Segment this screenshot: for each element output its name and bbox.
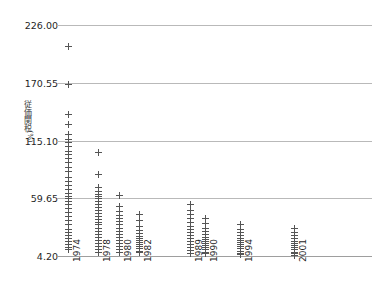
- data-point: [65, 155, 72, 162]
- data-point: [65, 201, 72, 208]
- y-tick-label: 4.20: [12, 251, 58, 262]
- data-point: [116, 215, 123, 222]
- data-point: [291, 244, 298, 251]
- chart-container: 従価関税 (%) 226.00170.55115.1059.654.20 197…: [0, 0, 386, 298]
- data-point: [291, 229, 298, 236]
- gridline: [57, 83, 372, 84]
- data-point: [136, 243, 143, 250]
- data-point: [65, 178, 72, 185]
- data-point: [65, 193, 72, 200]
- data-point: [187, 238, 194, 245]
- y-axis-ticks: 226.00170.55115.1059.654.20: [0, 0, 58, 298]
- data-point: [136, 230, 143, 237]
- x-tick-label: 2001: [298, 239, 308, 262]
- data-point: [65, 213, 72, 220]
- data-point: [202, 228, 209, 235]
- data-point: [95, 188, 102, 195]
- data-point: [187, 207, 194, 214]
- data-point: [95, 207, 102, 214]
- data-point: [291, 242, 298, 249]
- data-point: [187, 226, 194, 233]
- data-point: [95, 243, 102, 250]
- data-point: [95, 234, 102, 241]
- data-point: [65, 235, 72, 242]
- data-point: [202, 231, 209, 238]
- data-point: [65, 190, 72, 197]
- data-point: [237, 241, 244, 248]
- data-point: [95, 221, 102, 228]
- data-point: [95, 246, 102, 253]
- data-point: [65, 159, 72, 166]
- data-point: [65, 143, 72, 150]
- data-point: [291, 232, 298, 239]
- data-point: [187, 211, 194, 218]
- data-point: [136, 227, 143, 234]
- data-point: [65, 238, 72, 245]
- data-point: [187, 215, 194, 222]
- y-tick-label: 115.10: [12, 135, 58, 146]
- data-point: [187, 244, 194, 251]
- data-point: [95, 171, 102, 178]
- data-point: [237, 239, 244, 246]
- data-point: [187, 201, 194, 208]
- data-point: [95, 237, 102, 244]
- data-point: [95, 210, 102, 217]
- data-point: [95, 216, 102, 223]
- data-point: [187, 247, 194, 254]
- data-point: [202, 220, 209, 227]
- data-point: [65, 244, 72, 251]
- data-point: [187, 223, 194, 230]
- data-point: [187, 241, 194, 248]
- data-point: [65, 168, 72, 175]
- data-point: [291, 235, 298, 242]
- x-tick-label: 1978: [102, 239, 112, 262]
- data-point: [95, 201, 102, 208]
- data-point: [237, 245, 244, 252]
- data-point: [65, 151, 72, 158]
- data-point: [116, 234, 123, 241]
- data-point: [65, 205, 72, 212]
- data-point: [95, 219, 102, 226]
- data-point: [136, 248, 143, 255]
- data-point: [65, 209, 72, 216]
- data-point: [136, 241, 143, 248]
- data-point: [65, 164, 72, 171]
- data-point: [237, 237, 244, 244]
- data-point: [291, 240, 298, 247]
- data-point: [95, 149, 102, 156]
- data-point: [291, 225, 298, 232]
- data-point: [291, 246, 298, 253]
- data-point: [116, 249, 123, 256]
- data-point: [95, 193, 102, 200]
- data-point: [116, 228, 123, 235]
- data-point: [65, 43, 72, 50]
- data-point: [116, 237, 123, 244]
- data-point: [237, 235, 244, 242]
- data-point: [95, 184, 102, 191]
- data-point: [116, 212, 123, 219]
- data-point: [187, 232, 194, 239]
- data-point: [136, 233, 143, 240]
- data-point: [116, 240, 123, 247]
- data-point: [136, 211, 143, 218]
- data-point: [65, 148, 72, 155]
- data-point: [65, 121, 72, 128]
- data-point: [136, 237, 143, 244]
- data-point: [237, 229, 244, 236]
- data-point: [136, 217, 143, 224]
- data-point: [237, 232, 244, 239]
- data-point: [116, 246, 123, 253]
- x-tick-label: 1982: [143, 239, 153, 262]
- data-point: [65, 246, 72, 253]
- data-point: [65, 182, 72, 189]
- data-point: [65, 111, 72, 118]
- data-point: [136, 249, 143, 256]
- data-point: [237, 248, 244, 255]
- data-point: [65, 186, 72, 193]
- data-point: [202, 215, 209, 222]
- data-point: [95, 240, 102, 247]
- x-tick-label: 1989: [194, 239, 204, 262]
- data-point: [136, 223, 143, 230]
- x-tick-label: 1994: [244, 239, 254, 262]
- data-point: [116, 231, 123, 238]
